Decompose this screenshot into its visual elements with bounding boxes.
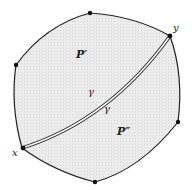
endpoint-label-y: y [172, 22, 179, 33]
region-label-p-prime: P′ [75, 48, 87, 61]
polygon-region [14, 13, 180, 182]
vertex-dot-x [21, 146, 26, 151]
vertex-dot-right [176, 120, 180, 124]
vertex-dot-bottom [93, 180, 97, 184]
gamma-label-lower: γ [104, 103, 110, 114]
gamma-label-upper: γ [88, 86, 94, 97]
diagram: P′ P″ γ γ x y [0, 0, 192, 190]
vertex-dot-top [88, 11, 92, 15]
region-label-p-double-prime: P″ [116, 125, 130, 138]
vertex-dot-left [14, 63, 18, 67]
vertex-dot-y [168, 34, 173, 39]
endpoint-label-x: x [12, 147, 18, 158]
